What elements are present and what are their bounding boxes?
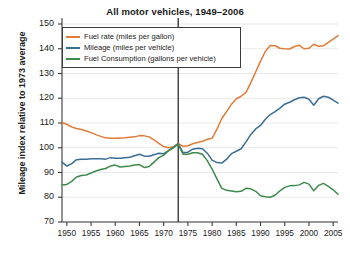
legend-item: Fuel Consumption (gallons per vehicle) (66, 53, 236, 64)
y-tick-label: 100 (28, 142, 54, 152)
series-line-1 (62, 96, 338, 166)
y-tick-label: 140 (28, 43, 54, 53)
y-tick-label: 90 (28, 167, 54, 177)
y-tick-label: 70 (28, 216, 54, 226)
y-tick-label: 110 (28, 117, 54, 127)
legend-swatch-icon (66, 36, 80, 38)
legend-item: Fuel rate (miles per gallon) (66, 31, 236, 42)
legend-label: Mileage (miles per vehicle) (84, 43, 174, 52)
legend-label: Fuel Consumption (gallons per vehicle) (84, 54, 216, 63)
chart-legend: Fuel rate (miles per gallon)Mileage (mil… (62, 27, 241, 68)
x-tick-label: 2005 (318, 228, 348, 238)
y-tick-label: 80 (28, 191, 54, 201)
series-line-2 (62, 144, 338, 197)
y-tick-label: 120 (28, 92, 54, 102)
chart-figure: All motor vehicles, 1949–2006 Mileage in… (0, 0, 350, 263)
legend-item: Mileage (miles per vehicle) (66, 42, 236, 53)
legend-label: Fuel rate (miles per gallon) (84, 32, 174, 41)
legend-swatch-icon (66, 47, 80, 49)
legend-swatch-icon (66, 58, 80, 60)
y-tick-label: 130 (28, 68, 54, 78)
y-tick-label: 150 (28, 18, 54, 28)
